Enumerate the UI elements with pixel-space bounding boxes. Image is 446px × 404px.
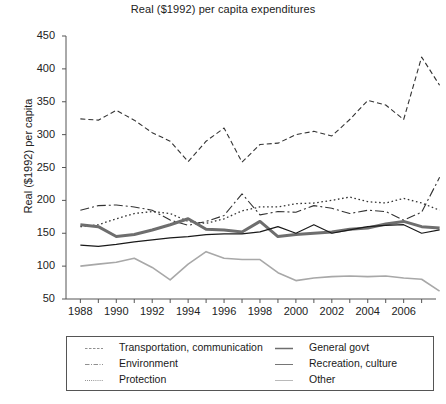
axes-lines bbox=[62, 36, 436, 303]
chart-figure: Real ($1992) per capita expenditures Rea… bbox=[0, 0, 446, 404]
thin-line-icon bbox=[265, 363, 303, 366]
thick-line-icon bbox=[265, 347, 303, 350]
series-line-general-govt bbox=[80, 219, 439, 237]
legend-label: Transportation, communication bbox=[119, 341, 263, 353]
series-line-environment bbox=[80, 177, 439, 225]
dash-dot-line-icon bbox=[75, 363, 113, 366]
legend-label: General govt bbox=[309, 341, 369, 353]
chart-legend: Transportation, communicationEnvironment… bbox=[66, 336, 434, 391]
legend-label: Environment bbox=[119, 357, 178, 369]
dashed-line-icon bbox=[75, 347, 113, 350]
gray-line-icon bbox=[265, 379, 303, 382]
dotted-line-icon bbox=[75, 379, 113, 382]
legend-label: Protection bbox=[119, 373, 166, 385]
data-series-layer bbox=[80, 57, 439, 291]
series-line-transportation-communication bbox=[80, 57, 439, 162]
legend-label: Other bbox=[309, 373, 335, 385]
series-line-other bbox=[80, 252, 439, 291]
legend-label: Recreation, culture bbox=[309, 357, 397, 369]
